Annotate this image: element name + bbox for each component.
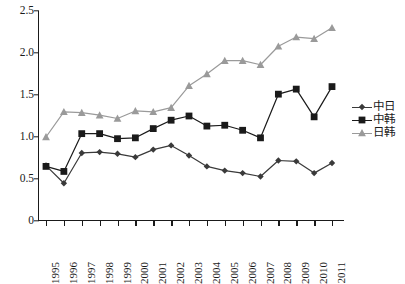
data-point-marker [186,152,192,158]
data-point-marker [239,170,245,176]
chart-legend: 中日中韩日韩 [352,101,405,140]
y-axis-tick-label: 0 [28,215,34,227]
data-point-marker [114,135,121,142]
series-diamond [43,142,335,186]
data-point-marker [132,134,139,141]
data-point-marker [293,86,300,93]
series-line [46,145,332,183]
x-axis-tick-mark [261,221,262,226]
data-point-marker [222,167,228,173]
legend-item[interactable]: 中韩 [352,114,405,126]
x-axis-tick-mark [189,221,190,226]
data-point-marker [293,158,299,164]
series-triangle [42,24,336,140]
data-point-marker [60,168,67,175]
x-axis-tick-mark [296,221,297,226]
data-point-marker [221,122,228,129]
y-axis-tick-label: 2.0 [20,47,34,59]
data-point-marker [185,82,193,89]
data-point-marker [96,149,102,155]
legend-marker-icon [352,114,372,126]
x-axis-tick-mark [64,221,65,226]
data-point-marker [329,160,335,166]
data-point-marker [311,170,317,176]
x-axis-tick-label: 2008 [282,262,293,284]
x-axis-tick-mark [243,221,244,226]
legend-label: 日韩 [372,127,395,139]
x-axis-tick-label: 2004 [211,262,222,284]
legend-marker-icon [352,101,372,113]
data-point-marker [328,24,336,31]
data-point-marker [204,163,210,169]
data-point-marker [311,113,318,120]
data-point-marker [358,129,366,136]
x-axis-tick-label: 2009 [300,262,311,284]
data-point-marker [132,154,138,160]
data-point-marker [203,123,210,130]
x-axis-tick-label: 2002 [175,262,186,284]
data-point-marker [257,134,264,141]
x-axis-tick-label: 2003 [193,262,204,284]
data-point-marker [79,150,85,156]
x-axis-tick-label: 2010 [318,262,329,284]
data-point-marker [114,151,120,157]
data-point-marker [359,104,365,110]
data-point-marker [168,142,174,148]
data-point-marker [78,130,85,137]
x-axis-tick-mark [278,221,279,226]
legend-label: 中韩 [372,114,395,126]
data-point-marker [150,146,156,152]
x-axis-tick-mark [314,221,315,226]
x-axis-tick-label: 2007 [265,262,276,284]
x-axis-tick-mark [207,221,208,226]
y-axis-labels: 00.51.01.52.02.5 [0,11,34,221]
data-point-marker [186,113,193,120]
legend-label: 中日 [372,101,395,113]
legend-item[interactable]: 日韩 [352,127,405,139]
x-axis-tick-label: 2011 [336,262,347,284]
legend-item[interactable]: 中日 [352,101,405,113]
x-axis-tick-label: 2001 [157,262,168,284]
data-point-marker [43,163,50,170]
x-axis-tick-mark [82,221,83,226]
y-axis-tick-label: 1.5 [20,89,34,101]
x-axis-tick-mark [46,221,47,226]
x-axis-tick-mark [100,221,101,226]
x-axis-tick-label: 1997 [86,262,97,284]
x-axis-tick-mark [118,221,119,226]
series-layer [38,11,344,221]
data-point-marker [96,130,103,137]
y-axis-tick-label: 1.0 [20,131,34,143]
x-axis-tick-mark [135,221,136,226]
data-point-marker [203,70,211,77]
x-axis-tick-marks [38,221,344,227]
x-axis-tick-label: 1995 [50,262,61,284]
x-axis-tick-label: 2000 [139,262,150,284]
data-point-marker [150,125,157,132]
data-point-marker [329,83,336,90]
data-point-marker [239,127,246,134]
legend-marker-icon [352,127,372,139]
y-axis-tick-label: 0.5 [20,173,34,185]
x-axis-tick-mark [332,221,333,226]
x-axis-tick-label: 1999 [122,262,133,284]
x-axis-tick-label: 2006 [247,262,258,284]
x-axis-tick-label: 1998 [104,262,115,284]
plot-area [38,11,344,221]
series-line [46,87,332,172]
data-point-marker [275,91,282,98]
data-point-marker [359,117,366,124]
x-axis-tick-label: 1996 [68,262,79,284]
x-axis-tick-mark [225,221,226,226]
x-axis-labels: 1995199619971998199920002001200220032004… [38,228,344,264]
data-point-marker [168,117,175,124]
x-axis-tick-label: 2005 [229,262,240,284]
data-point-marker [274,42,282,49]
y-axis-tick-label: 2.5 [20,5,34,17]
x-axis-tick-mark [171,221,172,226]
x-axis-tick-mark [153,221,154,226]
